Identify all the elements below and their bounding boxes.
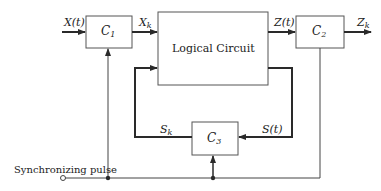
- sync-junction-c3: [211, 176, 215, 180]
- diagram-canvas: C1 Logical Circuit C2 C3 X(t) Xk Z(t) Zk…: [0, 0, 381, 191]
- signal-sk-label: Sk: [160, 124, 172, 137]
- signal-zt-label: Z(t): [274, 17, 295, 28]
- signal-zk-label: Zk: [357, 17, 370, 30]
- sync-input-terminal: [61, 176, 66, 181]
- block-c1-label: C1: [101, 25, 115, 39]
- block-logical-circuit-label: Logical Circuit: [172, 43, 255, 54]
- block-c2-label: C2: [312, 25, 326, 39]
- block-c3-label: C3: [207, 132, 221, 146]
- signal-xt-label: X(t): [64, 17, 85, 28]
- sync-junction-c1: [106, 176, 110, 180]
- signal-st-label: S(t): [262, 124, 283, 135]
- sync-pulse-label: Synchronizing pulse: [14, 165, 117, 175]
- signal-xk-label: Xk: [139, 17, 152, 30]
